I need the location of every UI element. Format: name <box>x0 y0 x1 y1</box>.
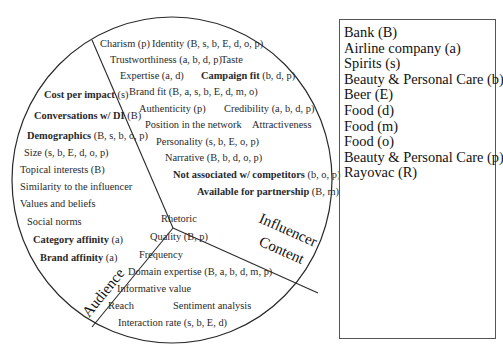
legend-item-food-o: Food (o) <box>344 134 495 150</box>
factor-charism: Charism (p) <box>100 38 150 50</box>
factor-taste: Taste <box>221 54 243 65</box>
factor-identity: Identity (B, s, b, E, d, o, p) <box>152 38 263 50</box>
factor-informative-value: Informative value <box>117 283 192 294</box>
legend-item-food-m: Food (m) <box>344 119 495 135</box>
factor-expertise: Expertise (a, d) <box>120 70 184 82</box>
factor-cost-per-impact: Cost per impact (s) <box>44 89 128 101</box>
factor-rhetoric: Rhetoric <box>161 213 197 224</box>
factor-conversations-di: Conversations w/ DI (B) <box>34 110 141 122</box>
factor-available-for-partnership: Available for partnership (B, m) <box>197 186 339 198</box>
factor-values-beliefs: Values and beliefs <box>20 198 96 209</box>
legend-item-food-d: Food (d) <box>344 103 495 119</box>
factor-narrative: Narrative (B, b, d, o, p) <box>165 152 262 164</box>
factor-demographics: Demographics (B, s, b, o, p) <box>27 130 148 142</box>
audience-factors: Cost per impact (s) Conversations w/ DI … <box>20 89 148 264</box>
legend-item-bank: Bank (B) <box>344 25 495 41</box>
content-factors: Rhetoric Quality (B, p) Frequency Domain… <box>108 213 272 329</box>
factor-brand-affinity: Brand affinity (a) <box>40 252 117 264</box>
legend-item-beauty-b: Beauty & Personal Care (b) <box>344 72 495 88</box>
factor-credibility: Credibility (a, b, d, p) <box>224 103 314 115</box>
factor-social-norms: Social norms <box>27 216 82 227</box>
legend-item-beauty-p: Beauty & Personal Care (p) <box>344 150 495 166</box>
legend-item-airline: Airline company (a) <box>344 41 495 57</box>
legend-item-rayovac: Rayovac (R) <box>344 165 495 181</box>
factor-quality: Quality (B, p) <box>150 231 208 243</box>
factor-personality: Personality (s, b, E, o, p) <box>156 136 259 148</box>
factor-trustworthiness: Trustworthiness (a, b, d, p) <box>110 54 222 66</box>
factor-attractiveness: Attractiveness <box>252 119 311 130</box>
factor-topical-interests: Topical interests (B) <box>20 164 105 176</box>
factor-sentiment-analysis: Sentiment analysis <box>173 300 251 311</box>
industry-legend: Bank (B) Airline company (a) Spirits (s)… <box>339 19 496 339</box>
factor-not-associated-competitors: Not associated w/ competitors (b, o, p) <box>173 169 340 181</box>
factor-position-in-network: Position in the network <box>145 119 242 130</box>
factor-category-affinity: Category affinity (a) <box>33 234 123 246</box>
factor-frequency: Frequency <box>139 249 184 260</box>
factor-size: Size (s, b, E, d, o, p) <box>24 147 109 159</box>
diagram-outline <box>12 17 332 343</box>
legend-item-beer: Beer (E) <box>344 87 495 103</box>
factor-interaction-rate: Interaction rate (s, b, E, d) <box>118 317 227 329</box>
factor-similarity-influencer: Similarity to the influencer <box>20 181 133 192</box>
factor-authenticity: Authenticity (p) <box>139 103 206 115</box>
factor-brand-fit: Brand fit (B, a, s, b, E, d, m, o) <box>129 86 258 98</box>
factor-reach: Reach <box>108 300 135 311</box>
factor-campaign-fit: Campaign fit (b, d, p) <box>201 70 295 82</box>
factor-domain-expertise: Domain expertise (B, a, b, d, m, p) <box>128 266 272 278</box>
legend-item-spirits: Spirits (s) <box>344 56 495 72</box>
